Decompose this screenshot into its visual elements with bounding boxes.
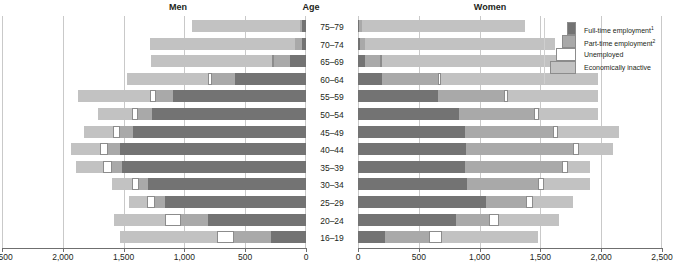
bar-men-20–24: [114, 214, 306, 226]
segment-part: [156, 90, 173, 102]
segment-inact: [151, 55, 273, 67]
legend: Full-time employment1Part-time employmen…: [548, 22, 662, 78]
tick-label-2500: 2,500: [0, 252, 16, 262]
bar-men-70–74: [150, 38, 306, 50]
segment-part: [385, 231, 429, 243]
bar-women-65–69: [358, 55, 573, 67]
age-label-70–74: 70–74: [306, 40, 358, 50]
bar-men-35–39: [76, 161, 306, 173]
segment-part: [465, 126, 553, 138]
segment-inact: [120, 231, 217, 243]
bar-men-16–19: [120, 231, 306, 243]
segment-inact: [129, 196, 147, 208]
segment-full: [271, 231, 306, 243]
legend-swatch-full: [567, 22, 576, 35]
segment-part: [108, 143, 120, 155]
segment-unemp: [150, 90, 157, 102]
segment-full: [120, 143, 306, 155]
gridline: [2, 16, 3, 248]
segment-part: [467, 178, 538, 190]
bar-men-75–79: [192, 20, 306, 32]
bar-men-45–49: [84, 126, 307, 138]
age-label-60–64: 60–64: [306, 75, 358, 85]
segment-part: [234, 231, 270, 243]
segment-unemp: [132, 178, 140, 190]
legend-footnote-marker: 1: [651, 25, 654, 31]
segment-full: [290, 55, 306, 67]
segment-part: [112, 161, 122, 173]
segment-full: [358, 143, 466, 155]
age-label-55–59: 55–59: [306, 92, 358, 102]
segment-unemp: [113, 126, 120, 138]
segment-full: [152, 108, 306, 120]
segment-full: [358, 161, 465, 173]
age-label-35–39: 35–39: [306, 163, 358, 173]
tick-label-2000: 2,000: [49, 252, 77, 262]
segment-part: [138, 108, 151, 120]
segment-unemp: [526, 196, 533, 208]
segment-part: [486, 196, 526, 208]
bar-women-45–49: [358, 126, 619, 138]
age-column-header: Age: [291, 2, 331, 12]
age-label-75–79: 75–79: [306, 22, 358, 32]
segment-inact: [71, 143, 100, 155]
age-label-16–19: 16–19: [306, 233, 358, 243]
segment-full: [165, 196, 306, 208]
tick-label-1000: 1,000: [170, 252, 198, 262]
segment-full: [358, 73, 382, 85]
tick-label-2000: 2,000: [587, 252, 615, 262]
age-label-25–29: 25–29: [306, 198, 358, 208]
segment-full: [208, 214, 306, 226]
bar-women-75–79: [358, 20, 525, 32]
bar-men-30–34: [112, 178, 306, 190]
segment-unemp: [489, 214, 499, 226]
segment-part: [466, 143, 573, 155]
legend-label-unemp: Unemployed: [584, 51, 623, 58]
segment-part: [120, 126, 133, 138]
bar-men-60–64: [127, 73, 306, 85]
bar-women-35–39: [358, 161, 590, 173]
segment-full: [358, 108, 459, 120]
segment-unemp: [217, 231, 234, 243]
bar-women-50–54: [358, 108, 598, 120]
segment-inact: [508, 90, 598, 102]
tick-label-0: 0: [292, 252, 320, 262]
age-label-20–24: 20–24: [306, 216, 358, 226]
segment-inact: [544, 178, 590, 190]
bar-men-25–29: [129, 196, 307, 208]
bar-women-55–59: [358, 90, 598, 102]
segment-part: [365, 55, 381, 67]
bar-men-40–44: [71, 143, 306, 155]
segment-inact: [568, 161, 590, 173]
segment-unemp: [429, 231, 442, 243]
bar-women-30–34: [358, 178, 590, 190]
segment-inact: [76, 161, 103, 173]
segment-part: [456, 214, 489, 226]
legend-footnote-marker: 2: [652, 38, 655, 44]
segment-part: [459, 108, 534, 120]
tick-label-500: 500: [231, 252, 259, 262]
segment-full: [148, 178, 306, 190]
segment-full: [173, 90, 306, 102]
tick-label-500: 500: [405, 252, 433, 262]
segment-part: [465, 161, 562, 173]
segment-full: [122, 161, 306, 173]
tick-label-1500: 1,500: [110, 252, 138, 262]
segment-inact: [98, 108, 132, 120]
segment-inact: [150, 38, 295, 50]
men-column-header: Men: [118, 2, 238, 12]
segment-part: [139, 178, 148, 190]
age-label-65–69: 65–69: [306, 57, 358, 67]
segment-part: [295, 38, 302, 50]
tick-label-2500: 2,500: [648, 252, 676, 262]
women-axis-rule: [358, 248, 662, 249]
bar-women-70–74: [358, 38, 555, 50]
segment-inact: [579, 143, 613, 155]
legend-label-part: Part-time employment2: [584, 38, 655, 47]
segment-part: [438, 90, 504, 102]
bar-men-55–59: [78, 90, 306, 102]
segment-inact: [127, 73, 207, 85]
age-label-40–44: 40–44: [306, 145, 358, 155]
segment-part: [181, 214, 208, 226]
bar-men-50–54: [98, 108, 306, 120]
